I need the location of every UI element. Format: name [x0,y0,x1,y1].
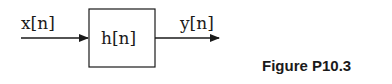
output-signal-label: y[n] [180,13,214,33]
figure-caption: Figure P10.3 [262,57,351,74]
system-label: h[n] [101,28,136,48]
input-signal-label: x[n] [21,13,55,33]
block-diagram: x[n] h[n] y[n] [0,0,240,84]
